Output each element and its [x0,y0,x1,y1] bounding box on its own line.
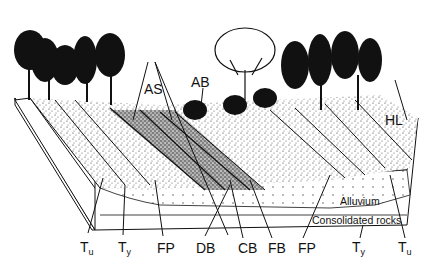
label-fp-right: FP [298,241,316,255]
river-valley-diagram [0,0,424,270]
label-tu-left: Tu [80,240,94,257]
label-tu-right: Tu [398,240,412,257]
label-as: AS [144,82,163,96]
label-alluvium: Alluvium [340,196,380,207]
label-consolidated-rocks: Consolidated rocks [312,215,401,226]
label-hl: HL [385,113,403,127]
label-cb: CB [238,241,257,255]
forest-left [14,30,125,105]
label-ty-left: Ty [118,240,131,257]
label-fp-left: FP [157,241,175,255]
label-fb: FB [268,241,286,255]
label-db: DB [196,241,215,255]
label-ab: AB [191,75,210,89]
label-ty-right: Ty [352,240,365,257]
